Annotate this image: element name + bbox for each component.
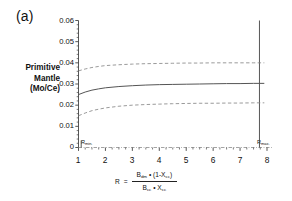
figure-panel-a: (a) Primitive Mantle (Mo/Ce) 0.06 0.05 0…	[0, 0, 292, 201]
curve-lower-bound	[79, 103, 265, 116]
equation-fraction: Bdm • (1-Xcc) Bcc • Xcc	[132, 170, 178, 193]
den-b-sub: cc	[147, 187, 151, 192]
num-dot: •	[149, 171, 151, 178]
equation-equals: =	[124, 178, 128, 185]
num-b-sub: dm	[141, 174, 147, 179]
den-x-sub: cc	[162, 187, 166, 192]
equation-numerator: Bdm • (1-Xcc)	[132, 170, 178, 182]
num-paren-open: (1-X	[153, 171, 165, 178]
curve-best-estimate	[79, 83, 265, 94]
equation-lhs: R	[115, 178, 120, 185]
curve-upper-bound	[79, 63, 265, 71]
x-axis-equation: R = Bdm • (1-Xcc) Bcc • Xcc	[0, 170, 292, 193]
equation-denominator: Bcc • Xcc	[138, 182, 172, 193]
num-x-sub: cc	[166, 174, 170, 179]
den-dot: •	[153, 184, 155, 191]
num-paren-close: )	[170, 171, 172, 178]
